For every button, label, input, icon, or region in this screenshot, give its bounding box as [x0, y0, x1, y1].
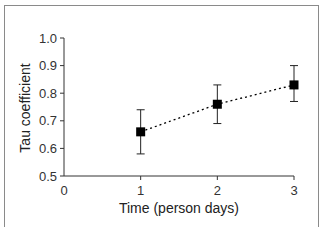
y-tick-label: 0.9	[39, 58, 57, 73]
x-tick-label: 0	[60, 183, 67, 198]
data-series	[136, 66, 298, 154]
y-tick-label: 0.7	[39, 113, 57, 128]
y-tick-label: 1.0	[39, 31, 57, 46]
x-tick-label: 1	[137, 183, 144, 198]
y-tick-label: 0.6	[39, 141, 57, 156]
chart-plot: 0.50.60.70.80.91.00123 Tau coefficient T…	[0, 0, 326, 227]
x-tick-label: 3	[290, 183, 297, 198]
axes: 0.50.60.70.80.91.00123	[39, 31, 298, 199]
data-point-marker	[290, 80, 299, 89]
data-point-marker	[213, 100, 222, 109]
x-axis-title: Time (person days)	[119, 200, 239, 216]
y-tick-label: 0.5	[39, 169, 57, 184]
x-tick-label: 2	[214, 183, 221, 198]
data-point-marker	[136, 127, 145, 136]
y-tick-label: 0.8	[39, 86, 57, 101]
y-axis-title: Tau coefficient	[17, 63, 33, 152]
